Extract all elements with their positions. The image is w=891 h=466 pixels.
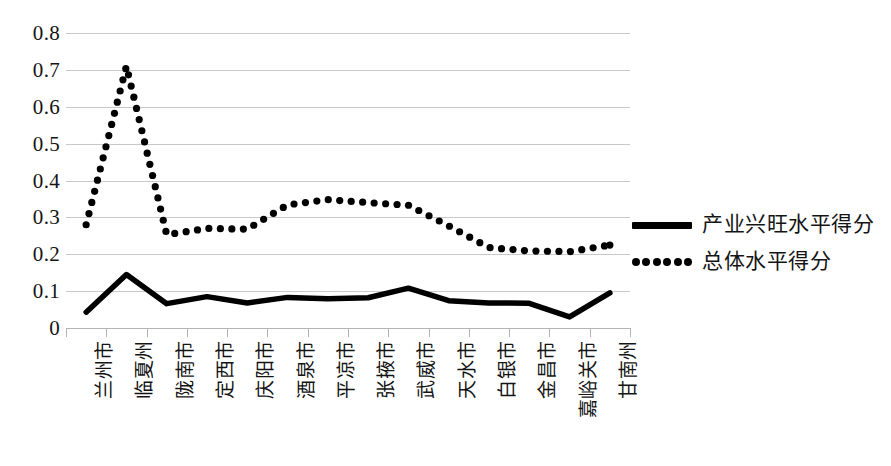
y-axis-tick-label: 0 <box>49 318 60 339</box>
series-dot <box>371 199 378 206</box>
series-dot <box>85 210 92 217</box>
legend-label-series-1: 产业兴旺水平得分 <box>702 214 874 235</box>
x-axis-category-label: 庆阳市 <box>256 340 275 399</box>
series-dot <box>91 188 98 195</box>
series-dot <box>154 194 161 201</box>
x-axis-category-label: 嘉峪关市 <box>579 340 598 418</box>
y-axis-tick-label: 0.3 <box>33 207 60 228</box>
series-dot <box>606 241 613 248</box>
series-dot <box>509 246 516 253</box>
series-dot <box>425 212 432 219</box>
series-dot <box>146 161 153 168</box>
series-dot <box>302 199 309 206</box>
x-axis-category-label: 天水市 <box>458 340 477 399</box>
y-axis-tick-label: 0.7 <box>33 59 60 80</box>
series-dot <box>97 165 104 172</box>
series-dot <box>149 172 156 179</box>
x-axis-category-label: 定西市 <box>216 340 235 399</box>
series-dot <box>250 222 257 229</box>
legend-item-series-2[interactable]: 总体水平得分 <box>632 243 887 280</box>
x-axis-tick <box>630 328 631 337</box>
x-axis-category-label: 陇南市 <box>176 340 195 399</box>
x-axis-category-label: 白银市 <box>498 340 517 399</box>
series-dot <box>141 138 148 145</box>
legend-label-series-2: 总体水平得分 <box>702 251 831 272</box>
series-dot <box>136 116 143 123</box>
series-dot <box>183 228 190 235</box>
series-dot <box>486 244 493 251</box>
series-dot <box>415 207 422 214</box>
solid-line-marker-icon <box>632 218 694 232</box>
series-dot <box>590 244 597 251</box>
x-axis-category-label: 甘南州 <box>619 340 638 399</box>
x-axis-category-label: 平凉市 <box>337 340 356 399</box>
series-dot <box>393 201 400 208</box>
series-dot <box>160 217 167 224</box>
series-dot <box>532 247 539 254</box>
x-axis-category-label: 临夏州 <box>135 340 154 399</box>
series-dot <box>130 94 137 101</box>
y-axis-tick-label: 0.4 <box>33 170 60 191</box>
series-dot <box>228 225 235 232</box>
series-dot <box>138 127 145 134</box>
series-dot <box>240 226 247 233</box>
x-axis-tick <box>348 328 349 337</box>
line-chart: 0.80.70.60.50.40.30.20.10 兰州市临夏州陇南市定西市庆阳… <box>0 0 891 466</box>
y-axis-tick-label: 0.8 <box>33 23 60 44</box>
series-dot <box>125 71 132 78</box>
x-axis-tick <box>187 328 188 337</box>
x-axis-tick <box>267 328 268 337</box>
series-dot <box>567 248 574 255</box>
series-dot <box>114 99 121 106</box>
series-dot <box>555 248 562 255</box>
x-axis-tick <box>388 328 389 337</box>
series-dot <box>88 199 95 206</box>
series-dot <box>280 204 287 211</box>
series-dot <box>122 65 129 72</box>
y-axis-tick-label: 0.6 <box>33 96 60 117</box>
x-axis-tick <box>469 328 470 337</box>
series-dot <box>348 198 355 205</box>
series-dot <box>336 197 343 204</box>
y-axis-tick-label: 0.1 <box>33 281 60 302</box>
dotted-line-marker-icon <box>632 255 694 269</box>
series-line-dotted <box>83 65 614 255</box>
x-axis-tick <box>106 328 107 337</box>
legend-item-series-1[interactable]: 产业兴旺水平得分 <box>632 206 887 243</box>
series-line-solid <box>86 275 610 317</box>
x-axis-category-labels: 兰州市临夏州陇南市定西市庆阳市酒泉市平凉市张掖市武威市天水市白银市金昌市嘉峪关市… <box>66 340 630 460</box>
x-axis-tick <box>308 328 309 337</box>
x-axis-category-label: 张掖市 <box>377 340 396 399</box>
y-axis-tick-labels: 0.80.70.60.50.40.30.20.10 <box>0 33 60 328</box>
x-axis-tick <box>66 328 67 337</box>
series-dot <box>359 199 366 206</box>
series-dot <box>105 132 112 139</box>
y-axis-tick-label: 0.2 <box>33 244 60 265</box>
x-axis-ticks <box>66 328 630 337</box>
series-dot <box>270 210 277 217</box>
series-dot <box>152 183 159 190</box>
series-dot <box>476 239 483 246</box>
series-dot <box>313 197 320 204</box>
series-dot <box>217 225 224 232</box>
plot-area <box>66 33 630 328</box>
series-dot <box>157 205 164 212</box>
x-axis-category-label: 酒泉市 <box>297 340 316 399</box>
series-dot <box>456 228 463 235</box>
x-axis-tick <box>590 328 591 337</box>
series-dot <box>544 248 551 255</box>
series-dot <box>260 216 267 223</box>
x-axis-tick <box>147 328 148 337</box>
x-axis-category-label: 兰州市 <box>95 340 114 399</box>
series-dot <box>117 87 124 94</box>
series-dot <box>446 223 453 230</box>
series-dot <box>436 217 443 224</box>
series-dot <box>498 245 505 252</box>
x-axis-category-label: 金昌市 <box>538 340 557 399</box>
series-dot <box>108 121 115 128</box>
series-dot <box>94 177 101 184</box>
series-dot <box>162 228 169 235</box>
x-axis-tick <box>227 328 228 337</box>
x-axis-tick <box>549 328 550 337</box>
series-dot <box>205 225 212 232</box>
